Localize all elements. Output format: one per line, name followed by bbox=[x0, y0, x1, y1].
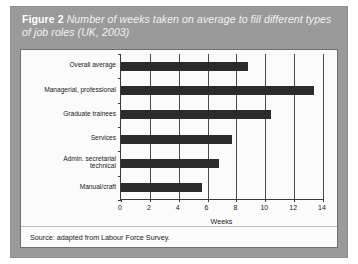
x-tick-label: 0 bbox=[118, 204, 122, 211]
chart-panel: Overall averageManagerial, professionalG… bbox=[20, 49, 338, 248]
category-label: Manual/craft bbox=[80, 183, 116, 191]
x-tick-label: 14 bbox=[318, 204, 326, 211]
category-label: Managerial, professional bbox=[44, 86, 116, 94]
bar bbox=[121, 86, 314, 95]
x-tick-label: 6 bbox=[205, 204, 209, 211]
figure-card: Figure 2Number of weeks taken on average… bbox=[11, 7, 347, 257]
gridline bbox=[208, 54, 209, 199]
category-label: Graduate trainees bbox=[63, 110, 116, 118]
category-label: Overall average bbox=[69, 61, 116, 69]
y-tick-mark bbox=[118, 200, 121, 201]
x-tick-mark bbox=[121, 199, 122, 202]
y-tick-mark bbox=[118, 54, 121, 55]
x-tick-mark bbox=[208, 199, 209, 202]
gridline bbox=[236, 54, 237, 199]
x-tick-label: 10 bbox=[260, 204, 268, 211]
bar bbox=[121, 159, 219, 168]
figure-title: Figure 2Number of weeks taken on average… bbox=[22, 13, 338, 39]
x-axis-title: Weeks bbox=[120, 217, 323, 226]
gridline bbox=[323, 54, 324, 199]
y-tick-mark bbox=[118, 151, 121, 152]
plot-area bbox=[120, 54, 323, 200]
y-tick-mark bbox=[118, 103, 121, 104]
bar bbox=[121, 183, 202, 192]
x-tick-mark bbox=[150, 199, 151, 202]
bar bbox=[121, 62, 248, 71]
x-tick-label: 12 bbox=[289, 204, 297, 211]
x-tick-mark bbox=[294, 199, 295, 202]
gridline bbox=[179, 54, 180, 199]
category-label: Admin. secretarial technical bbox=[63, 155, 116, 170]
x-tick-mark bbox=[236, 199, 237, 202]
x-tick-label: 2 bbox=[147, 204, 151, 211]
plot-wrapper: Overall averageManagerial, professionalG… bbox=[21, 54, 337, 214]
figure-caption: Number of weeks taken on average to fill… bbox=[22, 13, 331, 38]
y-tick-mark bbox=[118, 176, 121, 177]
x-tick-mark bbox=[265, 199, 266, 202]
gridline bbox=[265, 54, 266, 199]
gridline bbox=[150, 54, 151, 199]
bar bbox=[121, 135, 232, 144]
category-label: Services bbox=[91, 134, 116, 142]
source-divider bbox=[21, 226, 337, 227]
y-tick-mark bbox=[118, 127, 121, 128]
y-tick-mark bbox=[118, 78, 121, 79]
x-tick-label: 8 bbox=[233, 204, 237, 211]
x-tick-mark bbox=[323, 199, 324, 202]
figure-header: Figure 2Number of weeks taken on average… bbox=[11, 7, 347, 43]
figure-number: Figure 2 bbox=[22, 13, 64, 25]
category-axis-labels: Overall averageManagerial, professionalG… bbox=[21, 54, 120, 200]
x-tick-label: 4 bbox=[176, 204, 180, 211]
gridline bbox=[294, 54, 295, 199]
x-tick-mark bbox=[179, 199, 180, 202]
source-note: Source: adapted from Labour Force Survey… bbox=[30, 233, 170, 242]
bar bbox=[121, 110, 271, 119]
